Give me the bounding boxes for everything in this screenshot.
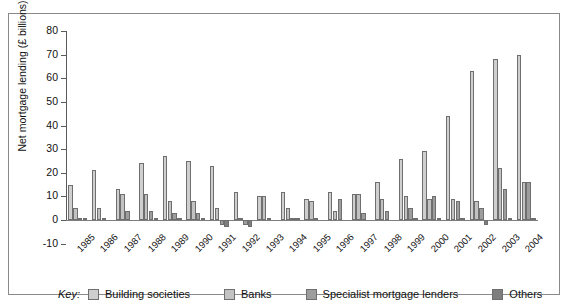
y-axis-tick-label: 70 (16, 49, 58, 60)
bar (526, 182, 530, 220)
x-axis-tick-label: 1990 (193, 232, 215, 254)
y-axis-tick-label: 40 (16, 120, 58, 131)
legend-item-label: Specialist mortgage lenders (323, 288, 459, 300)
y-axis-tick-label: 50 (16, 96, 58, 107)
y-axis-tick (61, 55, 66, 56)
bar (125, 211, 129, 220)
bar (508, 218, 512, 220)
bar (257, 196, 261, 220)
y-axis-tick-label: -10 (16, 238, 58, 249)
x-axis-tick-label: 1992 (240, 232, 262, 254)
y-axis-tick-label: 10 (16, 190, 58, 201)
legend-key-label: Key: (58, 288, 80, 300)
y-axis-tick (61, 31, 66, 32)
bar (333, 211, 337, 220)
bar (243, 220, 247, 225)
y-axis (66, 31, 67, 220)
y-axis-tick (61, 149, 66, 150)
y-axis-tick (61, 173, 66, 174)
bar (139, 163, 143, 220)
bar (503, 189, 507, 220)
legend-item: Specialist mortgage lenders (306, 288, 459, 300)
y-axis-tick-label: 60 (16, 72, 58, 83)
x-axis-tick-label: 1989 (169, 232, 191, 254)
y-axis-tick-label: 20 (16, 167, 58, 178)
bar (531, 218, 535, 220)
y-axis-tick-label: 0 (16, 214, 58, 225)
bar (437, 218, 441, 220)
bar (290, 218, 294, 220)
bar (380, 199, 384, 220)
legend-swatch (492, 289, 503, 300)
bar (493, 59, 497, 220)
chart-legend: Key: Building societiesBanksSpecialist m… (58, 288, 568, 300)
bar (517, 55, 521, 220)
bar (177, 218, 181, 220)
bar (97, 208, 101, 220)
bar (262, 196, 266, 220)
x-axis-tick-label: 1991 (216, 232, 238, 254)
bar (215, 208, 219, 220)
x-axis-tick-label: 1996 (334, 232, 356, 254)
x-axis-tick-label: 1998 (382, 232, 404, 254)
bar (234, 192, 238, 220)
bar (522, 182, 526, 220)
x-axis-tick-label: 1997 (358, 232, 380, 254)
bar (385, 211, 389, 220)
bar (224, 220, 228, 227)
bar (248, 220, 252, 227)
bar (404, 196, 408, 220)
x-axis-tick-label: 1994 (287, 232, 309, 254)
bar (186, 161, 190, 220)
bar (422, 151, 426, 220)
bar (68, 185, 72, 220)
x-axis-tick-label: 2001 (452, 232, 474, 254)
bar (191, 201, 195, 220)
bar (399, 159, 403, 220)
bar (408, 208, 412, 220)
bar (201, 218, 205, 220)
bar (460, 218, 464, 220)
bar (456, 201, 460, 220)
bar (413, 218, 417, 220)
bar (102, 218, 106, 220)
bar (479, 208, 483, 220)
bar (163, 156, 167, 220)
bar (427, 199, 431, 220)
plot-area (66, 31, 538, 220)
legend-item-label: Building societies (105, 288, 190, 300)
y-axis-tick (61, 102, 66, 103)
bar (328, 192, 332, 220)
bar (238, 218, 242, 220)
bar (267, 218, 271, 220)
legend-swatch (88, 289, 99, 300)
y-axis-tick (61, 220, 66, 221)
bar (446, 116, 450, 220)
legend-item-label: Others (509, 288, 542, 300)
x-axis-tick-label: 1993 (264, 232, 286, 254)
x-axis-tick-label: 2000 (429, 232, 451, 254)
bar (375, 182, 379, 220)
bar (361, 213, 365, 220)
bar (286, 208, 290, 220)
bar (352, 194, 356, 220)
x-axis-tick-label: 2004 (523, 232, 545, 254)
y-axis-tick (61, 196, 66, 197)
legend-item-label: Banks (241, 288, 272, 300)
bar (149, 211, 153, 220)
bar (295, 218, 299, 220)
bar (432, 196, 436, 220)
bar (196, 213, 200, 220)
bar (210, 166, 214, 220)
bar (116, 189, 120, 220)
bar (220, 220, 224, 225)
bar (338, 199, 342, 220)
bar (304, 199, 308, 220)
bar (172, 213, 176, 220)
x-axis-tick-label: 1999 (405, 232, 427, 254)
y-axis-tick-label: 30 (16, 143, 58, 154)
y-axis-tick-label: 80 (16, 25, 58, 36)
bar (281, 192, 285, 220)
legend-swatch (306, 289, 317, 300)
legend-item: Building societies (88, 288, 190, 300)
